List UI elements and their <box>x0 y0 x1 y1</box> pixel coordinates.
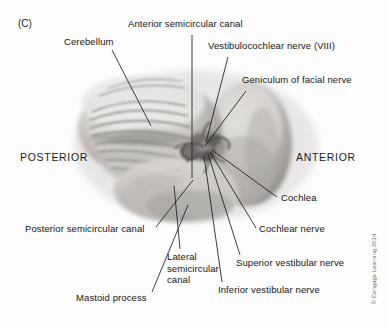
anatomical-figure-panel: (C) Cerebellum Anterior semicircular can… <box>0 0 387 327</box>
label-posterior-semicircular-canal: Posterior semicircular canal <box>25 223 144 235</box>
label-cochlear-nerve: Cochlear nerve <box>259 223 325 235</box>
label-mastoid-process: Mastoid process <box>76 292 147 304</box>
label-anterior-semicircular-canal: Anterior semicircular canal <box>128 18 243 30</box>
label-vestibulocochlear-nerve: Vestibulocochlear nerve (VIII) <box>208 40 335 52</box>
label-superior-vestibular-nerve: Superior vestibular nerve <box>236 257 344 269</box>
label-cerebellum: Cerebellum <box>64 36 114 48</box>
orientation-posterior: POSTERIOR <box>20 151 88 163</box>
panel-tag: (C) <box>18 18 32 29</box>
label-inferior-vestibular-nerve: Inferior vestibular nerve <box>218 284 320 296</box>
label-cochlea: Cochlea <box>281 192 317 204</box>
label-geniculum-of-facial-nerve: Geniculum of facial nerve <box>242 74 352 86</box>
copyright-credit: © Cengage Learning 2014 <box>371 234 377 304</box>
orientation-anterior: ANTERIOR <box>296 151 356 163</box>
label-lateral-semicircular-canal: Lateral semicircular canal <box>167 251 219 286</box>
